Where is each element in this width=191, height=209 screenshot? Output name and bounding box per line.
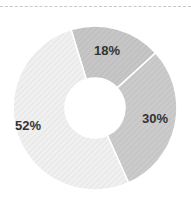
slice-label: 30% — [142, 111, 168, 126]
donut-chart: 18%30%52% — [0, 0, 191, 209]
slice-label: 52% — [15, 118, 41, 133]
slice-label: 18% — [94, 43, 120, 58]
